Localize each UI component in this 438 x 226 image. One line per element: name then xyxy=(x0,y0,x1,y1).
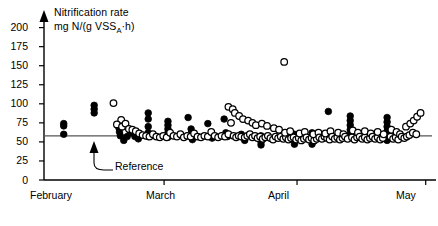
data-point-filled xyxy=(60,123,67,130)
y-axis-title: Nitrification rate mg N/(g VSSA·h) xyxy=(54,6,135,37)
data-point-filled xyxy=(60,131,67,138)
y-tick-label-25: 25 xyxy=(2,155,28,165)
data-point-filled xyxy=(325,108,332,115)
data-point-open xyxy=(264,123,271,130)
data-point-open xyxy=(413,131,420,138)
data-point-open xyxy=(110,100,117,107)
y-tick-label-125: 125 xyxy=(2,79,28,89)
data-point-open xyxy=(287,128,294,135)
data-point-filled xyxy=(185,114,192,121)
reference-arrow-head xyxy=(90,141,99,153)
y-tick-label-100: 100 xyxy=(2,98,28,108)
data-point-filled xyxy=(221,116,228,123)
reference-annotation-label: Reference xyxy=(115,161,163,172)
data-point-filled xyxy=(145,123,152,130)
x-tick-label-february: February xyxy=(30,190,72,201)
y-tick-label-0: 0 xyxy=(2,175,28,185)
reference-arrow-annotation xyxy=(90,141,114,170)
x-tick-label-march: March xyxy=(146,190,175,201)
data-points-group xyxy=(60,59,423,149)
data-point-open xyxy=(281,59,288,66)
nitrification-rate-scatter-chart: Nitrification rate mg N/(g VSSA·h) 02550… xyxy=(0,0,438,226)
data-point-filled xyxy=(91,110,98,117)
x-tick-label-may: May xyxy=(396,190,416,201)
data-point-filled xyxy=(145,110,152,117)
y-axis-title-line1: Nitrification rate xyxy=(54,6,135,20)
y-axis-title-units-pre: mg N/(g VSS xyxy=(54,20,116,32)
y-tick-label-150: 150 xyxy=(2,60,28,70)
y-tick-label-50: 50 xyxy=(2,136,28,146)
data-point-open xyxy=(380,131,387,138)
y-axis-title-units-post: ·h) xyxy=(121,20,134,32)
y-tick-label-175: 175 xyxy=(2,41,28,51)
data-point-filled xyxy=(205,120,212,127)
y-axis-title-line2: mg N/(g VSSA·h) xyxy=(54,20,135,38)
y-tick-label-75: 75 xyxy=(2,117,28,127)
x-tick-label-april: April xyxy=(268,190,289,201)
data-point-filled xyxy=(145,116,152,123)
data-point-open xyxy=(417,110,424,117)
data-point-open xyxy=(228,120,235,127)
y-axis-arrow-head xyxy=(40,10,49,22)
reference-arrow-leader xyxy=(94,153,113,170)
y-tick-label-200: 200 xyxy=(2,22,28,32)
